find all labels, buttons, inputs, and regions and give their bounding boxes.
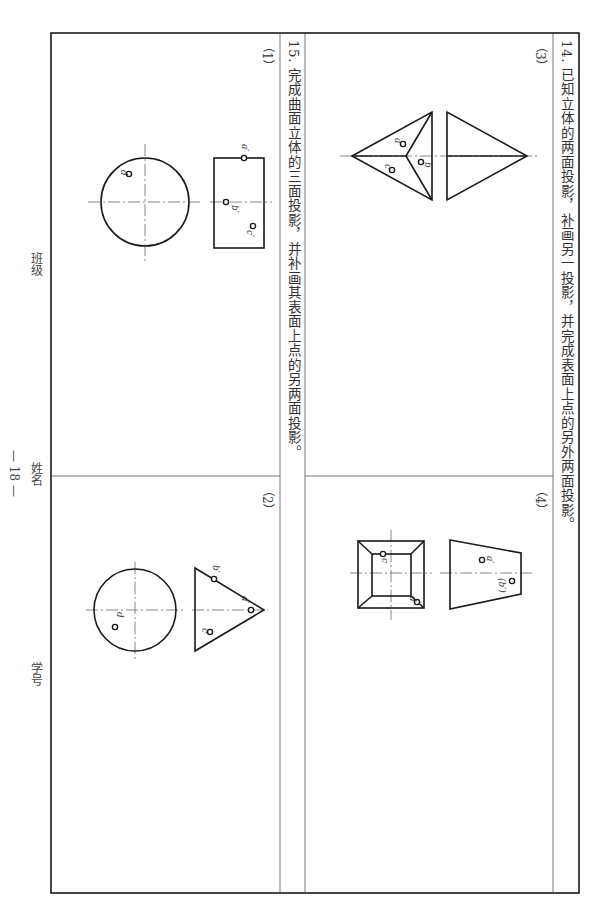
point-a-prime bbox=[248, 607, 253, 612]
label-d: d bbox=[115, 612, 125, 618]
figure-15-2-cone bbox=[86, 562, 268, 660]
point-c bbox=[380, 551, 385, 556]
point-b-prime bbox=[223, 199, 228, 204]
label-c-prime: c′ bbox=[245, 230, 255, 237]
problem-15-title: 15. 完成曲面立体的三面投影，并补画其表面上点的另两面投影。 bbox=[284, 40, 304, 459]
label-a-prime: a′ bbox=[240, 144, 250, 151]
label-c: c bbox=[383, 164, 393, 169]
problem-14-title: 14. 已知立体的两面投影，补画另一投影，并完成表面上点的另外两面投影。 bbox=[557, 40, 577, 532]
label-a: a bbox=[393, 138, 403, 143]
point-a-prime bbox=[241, 155, 246, 160]
point-a-prime bbox=[479, 557, 484, 562]
part-4-label: （4） bbox=[532, 484, 549, 516]
figure-14-3-pyramid bbox=[340, 112, 540, 200]
class-label: 班级 bbox=[27, 252, 44, 276]
student-id-label: 学号 bbox=[27, 662, 44, 686]
part-1-label: （1） bbox=[259, 40, 276, 72]
name-label: 姓名 bbox=[27, 462, 44, 486]
label-c: c bbox=[380, 558, 390, 563]
label-b-prime: (b′) bbox=[497, 578, 507, 593]
page-frame bbox=[51, 33, 579, 893]
label-c-prime: c′ bbox=[200, 628, 210, 635]
figure-14-4-frustum bbox=[350, 530, 532, 620]
point-c-prime bbox=[250, 223, 255, 228]
part-3-label: （3） bbox=[532, 40, 549, 72]
point-d bbox=[112, 624, 117, 629]
page-number: — 18 — bbox=[7, 450, 21, 497]
point-b-prime bbox=[211, 576, 216, 581]
label-d: d bbox=[119, 170, 129, 176]
part-2-label: （2） bbox=[259, 484, 276, 516]
label-d: d bbox=[408, 596, 418, 602]
point-b-prime bbox=[509, 578, 514, 583]
label-b-prime: b′ bbox=[211, 565, 221, 573]
label-b-prime: b′ bbox=[230, 205, 240, 213]
label-a-prime: a′ bbox=[485, 556, 495, 563]
figure-15-1-cylinder bbox=[88, 144, 272, 262]
label-a-prime: a′ bbox=[240, 596, 250, 603]
label-b: b bbox=[423, 162, 433, 168]
